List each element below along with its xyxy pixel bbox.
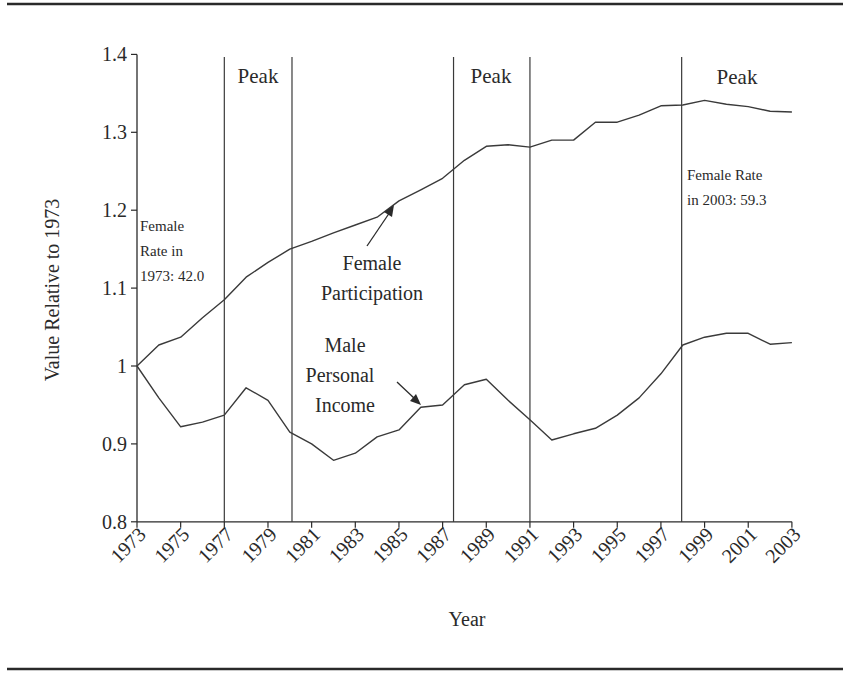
y-tick-label: 1.4	[102, 43, 127, 65]
x-axis-ticks: 1973197519771979198119831985198719891991…	[106, 522, 805, 567]
label-line: Personal	[306, 364, 375, 386]
x-tick-label: 2003	[761, 523, 805, 567]
annotation-line: Female Rate	[687, 167, 763, 183]
annotation-line: Rate in	[140, 243, 183, 259]
peak-label-2: Peak	[471, 64, 512, 88]
x-tick-label: 1983	[324, 523, 368, 567]
label-line: Participation	[321, 282, 423, 305]
annotation-line: Female	[140, 218, 184, 234]
x-tick-label: 1985	[368, 523, 412, 567]
label-male-income: Male Personal Income	[306, 334, 376, 416]
y-tick-label: 0.9	[102, 433, 127, 455]
annotation-line: in 2003: 59.3	[687, 192, 767, 208]
series-lines	[137, 100, 792, 460]
y-tick-label: 0.8	[102, 511, 127, 533]
x-tick-label: 1989	[455, 523, 499, 567]
arrowhead-icon	[384, 205, 394, 217]
y-tick-label: 1.2	[102, 199, 127, 221]
x-tick-label: 1993	[543, 523, 587, 567]
label-female-participation: Female Participation	[321, 252, 423, 305]
y-tick-label: 1	[117, 355, 127, 377]
x-tick-label: 1987	[412, 523, 456, 567]
x-tick-label: 1975	[150, 523, 194, 567]
y-tick-label: 1.1	[102, 277, 127, 299]
x-tick-label: 1995	[586, 523, 630, 567]
x-axis-title: Year	[449, 608, 486, 630]
peak-label-1: Peak	[238, 64, 279, 88]
x-tick-label: 1999	[674, 523, 718, 567]
x-tick-label: 1991	[499, 523, 543, 567]
x-tick-label: 2001	[717, 523, 761, 567]
x-tick-label: 1997	[630, 523, 674, 567]
male-income-line	[137, 333, 792, 460]
label-line: Female	[343, 252, 402, 274]
x-tick-label: 1977	[193, 523, 237, 567]
x-tick-label: 1979	[237, 523, 281, 567]
arrow-male	[397, 382, 421, 405]
arrow-female	[367, 205, 394, 246]
y-tick-label: 1.3	[102, 121, 127, 143]
label-line: Income	[315, 394, 375, 416]
peak-lines	[224, 57, 681, 522]
annotation-line: 1973: 42.0	[140, 268, 204, 284]
y-axis-ticks: 0.80.911.11.21.31.4	[102, 43, 137, 532]
x-tick-label: 1981	[281, 523, 325, 567]
annotation-female-2003: Female Rate in 2003: 59.3	[687, 167, 767, 208]
peak-label-3: Peak	[717, 65, 758, 89]
y-axis-title: Value Relative to 1973	[41, 199, 63, 382]
annotation-female-1973: Female Rate in 1973: 42.0	[140, 218, 204, 284]
line-chart: 0.80.911.11.21.31.4 19731975197719791981…	[0, 0, 843, 673]
female-participation-line	[137, 100, 792, 366]
label-line: Male	[324, 334, 365, 356]
